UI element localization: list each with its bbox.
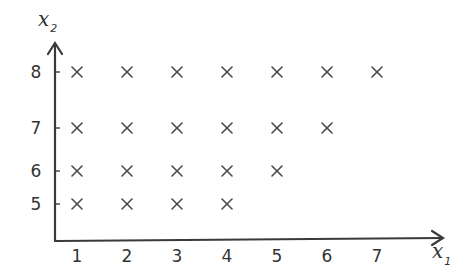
x-marker-icon	[222, 166, 232, 176]
x-marker-icon	[72, 67, 82, 77]
x-marker-icon	[122, 199, 132, 209]
y-axis-title: x2	[38, 7, 57, 35]
x-marker-icon	[172, 67, 182, 77]
x-marker-icon	[172, 123, 182, 133]
x-marker-icon	[222, 123, 232, 133]
x-marker-icon	[122, 123, 132, 133]
x-marker-icon	[72, 123, 82, 133]
x-marker-icon	[272, 166, 282, 176]
x-marker-icon	[322, 123, 332, 133]
x-tick-label: 1	[72, 246, 83, 266]
y-tick-label: 5	[31, 194, 42, 214]
x-marker-icon	[72, 199, 82, 209]
x-marker-icon	[222, 199, 232, 209]
y-tick-label: 7	[31, 118, 42, 138]
x-axis-ticks: 1234567	[72, 246, 383, 266]
axes	[48, 43, 443, 245]
y-tick-label: 8	[31, 62, 42, 82]
x-tick-label: 6	[322, 246, 333, 266]
x-marker-icon	[322, 67, 332, 77]
scatter-chart: x2 x1 1234567 5678	[0, 0, 473, 280]
x-tick-label: 7	[372, 246, 383, 266]
x-tick-label: 3	[172, 246, 183, 266]
data-points	[72, 67, 382, 209]
x-tick-label: 5	[272, 246, 283, 266]
x-axis-line	[55, 238, 442, 241]
x-marker-icon	[172, 199, 182, 209]
x-axis-title: x1	[432, 239, 451, 268]
x-marker-icon	[372, 67, 382, 77]
x-marker-icon	[272, 67, 282, 77]
x-marker-icon	[122, 166, 132, 176]
x-marker-icon	[222, 67, 232, 77]
x-marker-icon	[272, 123, 282, 133]
x-marker-icon	[72, 166, 82, 176]
x-tick-label: 2	[122, 246, 133, 266]
x-marker-icon	[172, 166, 182, 176]
x-marker-icon	[122, 67, 132, 77]
y-tick-label: 6	[31, 161, 42, 181]
x-tick-label: 4	[222, 246, 233, 266]
